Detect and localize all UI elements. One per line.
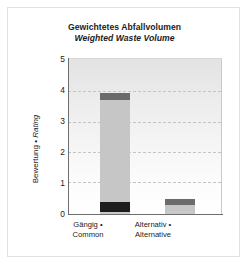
bar-alternativ-alternative	[165, 199, 195, 214]
y-axis-title: Bewertung • Rating	[28, 103, 42, 195]
bar2-segment-cap	[165, 199, 195, 205]
bar2-segment-body	[165, 205, 195, 211]
gridline-3	[68, 122, 221, 123]
y-axis-title-english: Rating	[31, 115, 40, 138]
bar1-segment-body	[100, 100, 130, 202]
plot-area	[68, 58, 222, 214]
y-tick-label-5: 5	[45, 54, 65, 64]
bar1-segment-dark-band	[100, 202, 130, 212]
y-tick-label-4: 4	[45, 85, 65, 95]
chart-title-english: Weighted Waste Volume	[8, 33, 241, 44]
x-axis-line	[68, 214, 223, 215]
y-tick-label-1: 1	[45, 178, 65, 188]
y-tick-label-0: 0	[45, 209, 65, 219]
bar1-segment-cap	[100, 93, 130, 100]
gridline-1	[68, 182, 221, 183]
x-tick-label-alternativ-alternative: Alternativ • Alternative	[109, 220, 197, 241]
x-tick-label-alternativ-line2: Alternative	[109, 230, 197, 240]
chart-title-german: Gewichtetes Abfallvolumen	[8, 22, 241, 33]
gridline-2	[68, 152, 221, 153]
gridline-4	[68, 91, 221, 92]
bar-gaengig-common	[100, 93, 130, 214]
x-tick-label-alternativ-line1: Alternativ •	[109, 220, 197, 230]
y-axis-title-separator: •	[31, 138, 40, 145]
y-axis-ticks: 5 4 3 2 1 0	[41, 58, 65, 215]
chart-figure: Gewichtetes Abfallvolumen Weighted Waste…	[7, 7, 240, 257]
y-tick-label-3: 3	[45, 116, 65, 126]
y-tick-label-2: 2	[45, 147, 65, 157]
y-axis-line	[68, 58, 69, 215]
chart-title-block: Gewichtetes Abfallvolumen Weighted Waste…	[8, 22, 241, 43]
y-axis-title-german: Bewertung	[31, 145, 40, 183]
